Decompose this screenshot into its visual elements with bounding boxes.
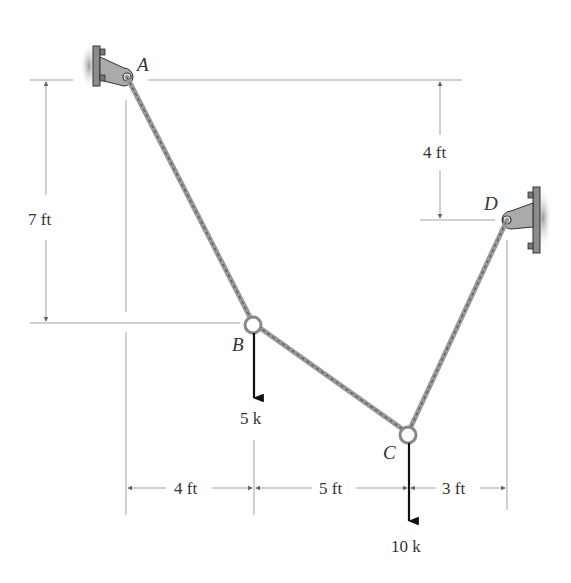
point-b-label: B	[232, 334, 244, 355]
point-d-label: D	[483, 193, 498, 214]
load-b-label: 5 k	[240, 409, 262, 428]
point-a-label: A	[135, 54, 149, 75]
ring-b-icon	[245, 317, 261, 333]
dimension-7ft: 7 ft	[28, 82, 51, 321]
point-c-label: C	[383, 442, 396, 463]
dim-horizontal-bc: 5 ft	[319, 479, 342, 498]
ring-c-icon	[400, 427, 416, 443]
dimension-horizontal: 4 ft 5 ft 3 ft	[128, 479, 505, 498]
support-d-icon	[502, 186, 552, 253]
dim-horizontal-cd: 3 ft	[442, 479, 465, 498]
dimension-4ft-vertical: 4 ft	[423, 82, 446, 218]
load-c-label: 10 k	[391, 537, 421, 556]
support-a-icon	[80, 42, 133, 90]
cable-diagram: A D B C 5 k 10 k 7 ft 4 ft	[0, 0, 571, 583]
dim-vertical-ab: 7 ft	[28, 210, 51, 229]
dim-vertical-ad: 4 ft	[423, 143, 446, 162]
dim-horizontal-ab: 4 ft	[174, 479, 197, 498]
cable	[127, 77, 507, 433]
